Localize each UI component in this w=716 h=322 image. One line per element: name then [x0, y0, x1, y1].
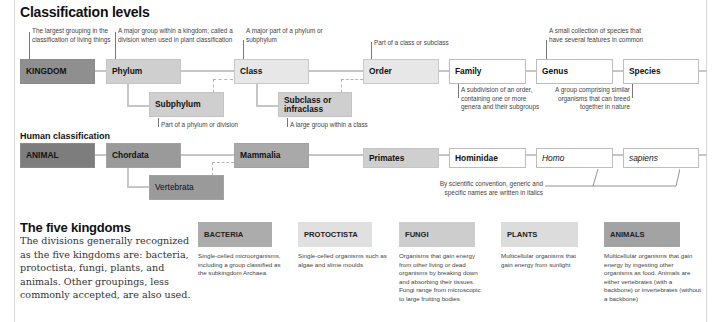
kingdom-fungi-desc: Organisms that gain energy from other li… — [399, 252, 485, 304]
kingdom-plants-desc: Multicellular organisms that gain energy… — [501, 252, 587, 269]
note-pointer — [371, 42, 372, 59]
connector-line — [127, 105, 151, 107]
note-phylum: A major group within a kingdom; called a… — [118, 27, 234, 44]
human-phylum: Chordata — [106, 143, 181, 168]
human-genus: Homo — [536, 148, 613, 168]
connector-line — [256, 105, 280, 107]
level-class: Class — [234, 59, 309, 84]
note-pointer — [115, 32, 116, 59]
human-kingdom: ANIMAL — [20, 143, 95, 168]
level-genus: Genus — [536, 59, 613, 84]
five-kingdoms-description: The divisions generally recognized as th… — [20, 234, 200, 302]
connector-line — [256, 83, 258, 106]
kingdom-protoctista: PROTOCTISTA — [298, 222, 372, 247]
italics-note: By scientific convention, generic and sp… — [430, 180, 543, 197]
kingdom-animals-desc: Multicellular organisms that gain energy… — [604, 252, 702, 304]
note-subclass: A large group within a class — [290, 121, 390, 130]
level-subclass: Subclass or infraclass — [278, 92, 352, 117]
note-pointer — [546, 40, 547, 59]
level-family: Family — [449, 59, 526, 84]
connector-line — [127, 83, 129, 106]
kingdom-bacteria-desc: Single-celled microorganisms, including … — [198, 252, 286, 278]
frame-left-border — [14, 0, 15, 322]
note-pointer — [458, 84, 459, 98]
note-pointer — [243, 40, 244, 59]
level-subphylum: Subphylum — [149, 92, 224, 117]
note-order: Part of a class or subclass — [374, 39, 474, 48]
connector-line — [127, 186, 151, 188]
note-genus: A small collection of species that have … — [549, 27, 649, 44]
kingdom-bacteria: BACTERIA — [198, 222, 272, 247]
note-family: A subdivision of an order, containing on… — [461, 86, 541, 112]
dashed-connector — [341, 79, 363, 80]
note-class: A major part of a phylum or subphylum — [246, 27, 326, 44]
frame-right-border — [706, 0, 707, 322]
level-phylum: Phylum — [106, 59, 181, 84]
kingdom-animals: ANIMALS — [604, 222, 680, 247]
five-kingdoms-title: The five kingdoms — [20, 220, 131, 235]
note-kingdom: The largest grouping in the classificati… — [32, 27, 112, 44]
level-order: Order — [363, 59, 439, 84]
note-pointer — [29, 32, 30, 59]
classification-title: Classification levels — [20, 4, 150, 20]
level-species: Species — [623, 59, 699, 84]
dashed-connector — [212, 162, 234, 163]
connector-line — [127, 167, 129, 187]
level-kingdom: KINGDOM — [20, 59, 95, 84]
note-subphylum: Part of a phylum or division — [161, 121, 261, 130]
human-class: Mammalia — [234, 143, 309, 168]
human-classification-title: Human classification — [20, 131, 110, 141]
human-subphylum: Vertebrata — [149, 175, 224, 200]
note-pointer — [158, 118, 159, 127]
human-order: Primates — [363, 148, 439, 168]
note-pointer — [287, 118, 288, 127]
dashed-connector — [213, 79, 233, 80]
kingdom-protoctista-desc: Single-celled organisms such as algae an… — [298, 252, 388, 269]
kingdom-plants: PLANTS — [501, 222, 578, 247]
note-pointer — [632, 84, 633, 98]
human-species: sapiens — [623, 148, 699, 168]
kingdom-fungi: FUNGI — [399, 222, 475, 247]
note-species: A group comprising similar organisms tha… — [548, 86, 630, 112]
human-family: Hominidae — [449, 148, 526, 168]
dashed-connector — [212, 162, 213, 176]
